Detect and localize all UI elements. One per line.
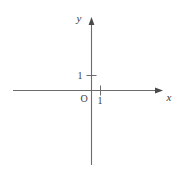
x-tick-label-1: 1 [98, 95, 103, 106]
coordinate-plane-figure: y x O 1 1 [0, 0, 184, 173]
x-axis-label: x [166, 91, 172, 103]
y-axis-label: y [76, 12, 82, 24]
x-axis-arrowhead-icon [155, 88, 163, 94]
y-tick-label-1: 1 [78, 70, 83, 81]
origin-label: O [80, 93, 87, 104]
y-axis-arrowhead-icon [89, 17, 95, 25]
